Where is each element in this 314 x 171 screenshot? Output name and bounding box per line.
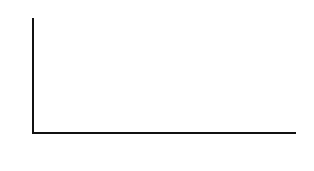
- bar-chart: [0, 0, 314, 171]
